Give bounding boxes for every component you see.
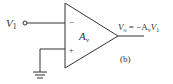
output-equation: Vo = −AvV1 (118, 22, 159, 33)
op-amp-triangle (65, 3, 118, 68)
noninverting-ground-wire (40, 49, 65, 72)
op-amp-diagram: V1 − + Av Vo = −AvV1 (b) (0, 0, 173, 84)
figure-label: (b) (120, 54, 131, 64)
minus-sign: − (69, 17, 74, 27)
gain-label: Av (78, 30, 90, 44)
plus-sign: + (69, 46, 74, 55)
input-terminal (23, 21, 27, 25)
input-label: V1 (6, 17, 17, 31)
ground-icon (33, 72, 47, 78)
